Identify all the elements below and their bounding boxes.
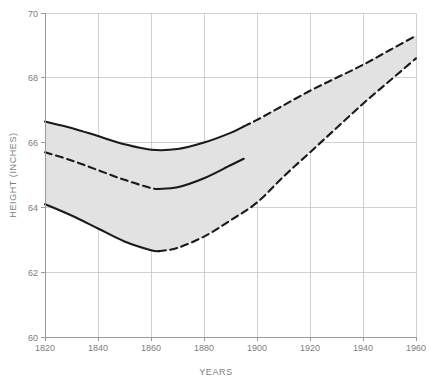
y-axis-title: HEIGHT (INCHES): [8, 132, 18, 217]
y-tick-label: 64: [28, 203, 38, 213]
height-over-years-line-chart: 606264666870 182018401860188019001920194…: [0, 0, 434, 386]
y-tick-label: 60: [28, 333, 38, 343]
x-tick-label: 1920: [300, 343, 320, 353]
chart-container: 606264666870 182018401860188019001920194…: [0, 0, 434, 386]
x-tick-label: 1900: [247, 343, 267, 353]
x-tick-label: 1860: [141, 343, 161, 353]
x-tick-label: 1820: [35, 343, 55, 353]
y-axis-tick-labels: 606264666870: [28, 9, 45, 343]
x-tick-label: 1940: [353, 343, 373, 353]
x-tick-label: 1960: [406, 343, 426, 353]
y-tick-label: 68: [28, 73, 38, 83]
x-axis-title: YEARS: [199, 367, 233, 377]
y-tick-label: 62: [28, 268, 38, 278]
x-tick-label: 1840: [88, 343, 108, 353]
y-tick-label: 70: [28, 9, 38, 19]
x-axis-tick-labels: 18201840186018801900192019401960: [35, 337, 426, 353]
x-tick-label: 1880: [194, 343, 214, 353]
y-tick-label: 66: [28, 138, 38, 148]
